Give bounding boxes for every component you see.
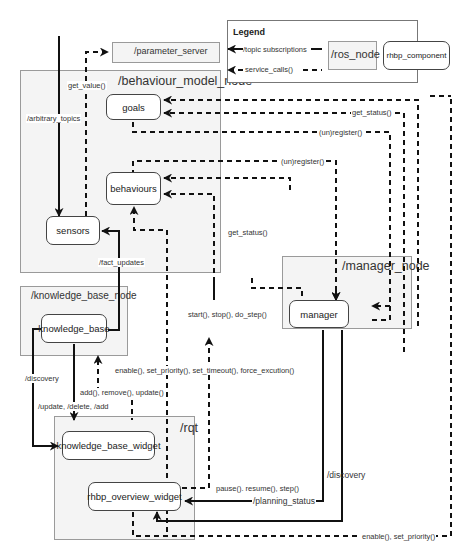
edge-label-enable-set-priority-short: enable(), set_priority() xyxy=(361,532,436,541)
edge-label-enable-set-priority-long: enable(), set_priority(), set_timeout(),… xyxy=(114,366,295,375)
edge-label-fact-updates: /fact_updates xyxy=(98,258,145,267)
edge-label-get-value: get_value() xyxy=(67,81,107,90)
component-behaviours[interactable]: behaviours xyxy=(106,172,161,205)
edge-label-arbitrary-topics: /arbitrary_topics xyxy=(26,114,81,123)
component-goals[interactable]: goals xyxy=(106,94,161,120)
component-rhbp-overview-widget[interactable]: rhbp_overview_widget xyxy=(88,482,181,511)
component-sensors[interactable]: sensors xyxy=(46,216,100,245)
edge-label-discovery-kb: /discovery xyxy=(24,374,60,383)
edge-label-discovery-manager: /discovery xyxy=(326,471,366,480)
edge-label-get-status-behaviours: get_status() xyxy=(227,228,269,237)
edge-label-update-delete-add: /update, /delete, /add xyxy=(37,402,109,411)
edge-label-planning-status: /planning_status xyxy=(252,497,316,506)
edge-label-get-status-goals: get_status() xyxy=(351,108,393,117)
component-knowledge-base[interactable]: knowledge_base xyxy=(41,314,107,343)
edge-label-unregister-behaviours: (un)register() xyxy=(280,157,325,166)
component-manager[interactable]: manager xyxy=(289,300,349,328)
edge-label-pause-resume-step: pause(). resume(), step() xyxy=(215,484,300,493)
edge-label-unregister-goals: (un)register() xyxy=(318,128,363,137)
edge-label-start-stop-do-step: start(), stop(), do_step() xyxy=(187,310,268,319)
edge-label-add-remove-update: add(), remove(), update() xyxy=(79,388,165,397)
component-knowledge-base-widget[interactable]: knowledge_base_widget xyxy=(62,431,155,460)
